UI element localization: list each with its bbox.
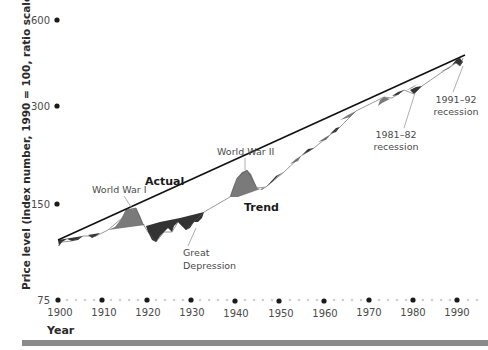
ww2-label: World War II [217,146,274,157]
x-tick-label-1950: 1950 [268,308,293,319]
x-tick-label-1910: 1910 [91,307,116,318]
x-tick-dot-1910 [99,297,104,302]
x-tick-dot-1990 [454,297,459,302]
x-tick-label-1990: 1990 [444,307,469,318]
y-tick-label-300: 300 [31,101,50,112]
x-tick-dot-1900 [55,297,60,302]
x-tick-label-1980: 1980 [400,307,425,318]
y-tick-label-75: 75 [37,295,50,306]
y-axis: 600 300 150 75 Price level (index number… [20,0,60,306]
depression-leader-line [188,228,196,246]
annotations: World War I Actual Great Depression Worl… [92,66,478,271]
x-tick-label-1900: 1900 [47,307,72,318]
depression-label-1: Great [183,247,210,258]
rec9192-label-2: recession [434,106,479,117]
x-tick-label-1940: 1940 [223,308,248,319]
rec9192-label-1: 1991–92 [435,94,476,105]
y-tick-label-150: 150 [31,199,50,210]
bottom-rule [22,340,488,346]
trend-label: Trend [244,201,279,214]
rec9192-leader-line [453,66,463,92]
x-tick-label-1960: 1960 [312,308,337,319]
1970s-inflation-area [378,97,390,106]
x-tick-dot-1920 [144,297,149,302]
price-level-chart: 600 300 150 75 Price level (index number… [0,0,488,350]
x-tick-dot-1930 [188,297,193,302]
x-axis-title: Year [46,324,75,337]
x-tick-label-1920: 1920 [135,307,160,318]
depression-label-2: Depression [183,260,236,271]
y-axis-title: Price level (index number, 1990 = 100, r… [20,0,32,290]
x-tick-label-1970: 1970 [356,307,381,318]
ww1-label: World War I [92,184,147,195]
y-tick-dot-300 [54,103,59,108]
x-tick-dot-1980 [410,297,415,302]
x-tick-label-1930: 1930 [179,307,204,318]
x-axis-dots [66,299,479,302]
y-tick-label-600: 600 [31,15,50,26]
ww2-area [230,170,266,197]
y-tick-dot-150 [54,201,59,206]
x-tick-dot-1950 [276,298,281,303]
x-tick-dot-1960 [321,298,326,303]
y-tick-dot-600 [54,17,59,22]
x-axis: 1900 1910 1920 1930 1940 1950 1960 1970 … [46,297,470,337]
ww1-area [108,208,145,230]
x-tick-dot-1970 [366,297,371,302]
rec8182-leader-line [404,93,415,128]
x-tick-dot-1940 [232,298,237,303]
actual-label: Actual [145,175,184,188]
rec8182-label-1: 1981–82 [375,129,416,140]
rec8182-label-2: recession [374,141,419,152]
